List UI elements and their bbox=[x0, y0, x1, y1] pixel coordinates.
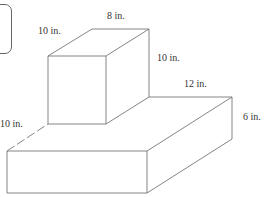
label-base-depth-right: 12 in. bbox=[184, 79, 207, 89]
label-top-width: 8 in. bbox=[107, 11, 125, 21]
label-base-depth-left: 10 in. bbox=[0, 119, 23, 129]
base-top-inner-edge bbox=[106, 97, 149, 124]
top-cube bbox=[48, 29, 149, 124]
label-base-height: 6 in. bbox=[243, 112, 261, 122]
top-cube-front-face bbox=[48, 56, 106, 124]
label-top-depth: 10 in. bbox=[38, 26, 61, 36]
base-front-face bbox=[7, 151, 147, 193]
label-top-height: 10 in. bbox=[157, 53, 180, 63]
base-bottom-right-edge bbox=[147, 139, 232, 193]
base-top-right-edge bbox=[147, 97, 232, 151]
top-cube-top-face bbox=[48, 29, 149, 56]
base-prism bbox=[7, 97, 232, 193]
